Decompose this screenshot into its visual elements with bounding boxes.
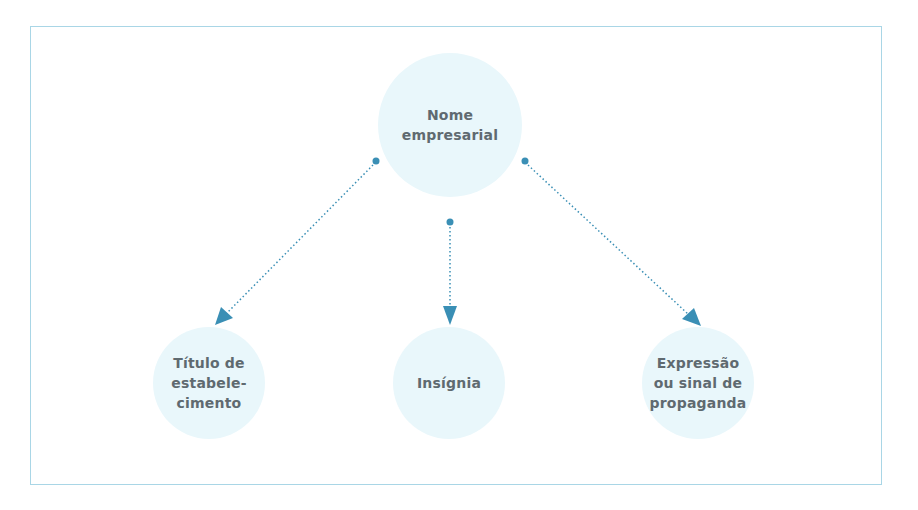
- edge-start-dot-icon: [373, 158, 380, 165]
- edge-start-dot-icon: [447, 219, 454, 226]
- dotted-line: [528, 165, 688, 314]
- edge-to-insignia: [443, 219, 457, 326]
- arrowhead-icon: [443, 306, 457, 325]
- edge-to-titulo: [215, 158, 380, 326]
- arrowhead-icon: [215, 307, 233, 325]
- edge-start-dot-icon: [522, 158, 529, 165]
- edges-layer: [0, 0, 918, 510]
- arrowhead-icon: [682, 308, 701, 326]
- dotted-line: [226, 165, 373, 314]
- edge-to-expressao: [522, 158, 702, 327]
